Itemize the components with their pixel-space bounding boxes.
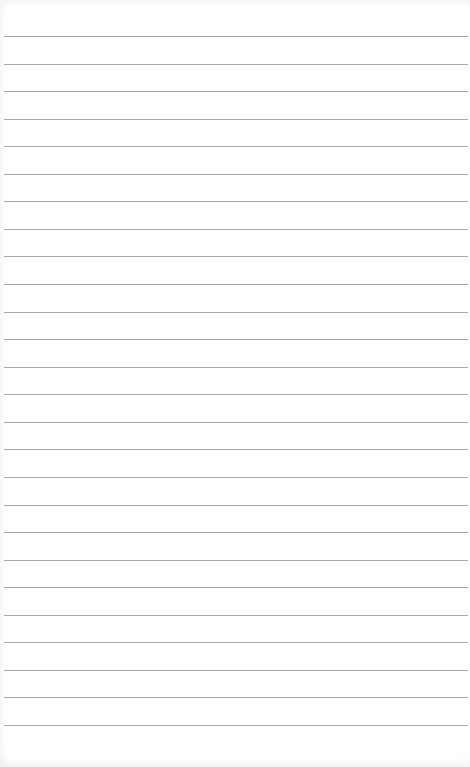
ruled-line [4,91,468,92]
ruled-line [4,505,468,506]
ruled-line [4,367,468,368]
ruled-line [4,615,468,616]
ruled-line [4,670,468,671]
ruled-line [4,256,468,257]
lined-notepad-page[interactable] [0,0,470,767]
ruled-line [4,587,468,588]
ruled-line [4,119,468,120]
ruled-line [4,532,468,533]
ruled-line [4,284,468,285]
ruled-line [4,697,468,698]
ruled-line [4,312,468,313]
ruled-line [4,422,468,423]
ruled-line [4,560,468,561]
ruled-line [4,642,468,643]
ruled-line [4,146,468,147]
ruled-line [4,339,468,340]
ruled-line [4,449,468,450]
ruled-line [4,477,468,478]
ruled-line [4,201,468,202]
ruled-line [4,725,468,726]
ruled-line [4,36,468,37]
ruled-line [4,394,468,395]
ruled-line [4,229,468,230]
ruled-line [4,174,468,175]
ruled-line [4,64,468,65]
